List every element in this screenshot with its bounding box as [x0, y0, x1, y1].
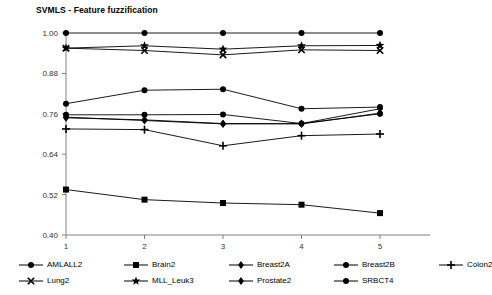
legend-item-mll-leuk3[interactable]: MLL_Leuk3 [123, 274, 194, 288]
legend-row: AMLALL2Brain2Breast2ABreast2BColon2 [8, 258, 442, 272]
x-tick-label: 3 [221, 242, 226, 251]
data-point-star [132, 276, 141, 284]
legend-swatch [228, 259, 254, 271]
legend-row: Lung2MLL_Leuk3Prostate2SRBCT4 [8, 274, 442, 288]
data-point-diamond [238, 261, 244, 269]
legend-item-breast2a[interactable]: Breast2A [228, 258, 290, 272]
data-point-circle [220, 30, 226, 36]
x-tick-label: 4 [299, 242, 304, 251]
series-colon2 [62, 125, 384, 150]
data-point-circle [299, 106, 305, 112]
legend-item-srbct4[interactable]: SRBCT4 [333, 274, 394, 288]
data-point-diamond [220, 120, 226, 128]
legend-marker-circle [333, 259, 359, 271]
legend-marker [447, 261, 455, 269]
legend-marker-circle [18, 259, 44, 271]
data-point-square [133, 262, 139, 268]
x-tick-label: 5 [378, 242, 383, 251]
series-breast2b [63, 86, 383, 112]
data-point-circle [343, 278, 349, 284]
legend-marker [238, 261, 244, 269]
y-tick-label: 0.52 [42, 191, 58, 200]
data-point-circle [63, 30, 69, 36]
y-tick-label: 1.00 [42, 29, 58, 38]
data-point-circle [220, 111, 226, 117]
legend-marker-cross [18, 275, 44, 287]
legend-marker [238, 277, 244, 285]
data-point-square [220, 200, 226, 206]
data-point-circle [142, 87, 148, 93]
legend-marker-plus [438, 259, 464, 271]
legend-item-prostate2[interactable]: Prostate2 [228, 274, 291, 288]
chart-legend: AMLALL2Brain2Breast2ABreast2BColon2Lung2… [8, 258, 442, 292]
legend-label: AMLALL2 [47, 259, 82, 271]
data-point-circle [142, 30, 148, 36]
data-point-square [377, 210, 383, 216]
series-mll-leuk3 [62, 41, 385, 53]
legend-label: SRBCT4 [362, 275, 394, 287]
data-point-circle [343, 262, 349, 268]
data-point-circle [220, 86, 226, 92]
data-point-diamond [238, 277, 244, 285]
data-point-circle [63, 101, 69, 107]
data-point-circle [299, 30, 305, 36]
data-point-diamond [142, 116, 148, 124]
legend-label: MLL_Leuk3 [152, 275, 194, 287]
legend-swatch [18, 275, 44, 287]
legend-swatch [438, 259, 464, 271]
legend-item-lung2[interactable]: Lung2 [18, 274, 69, 288]
legend-swatch [123, 275, 149, 287]
data-point-circle [377, 30, 383, 36]
legend-marker-diamond [228, 275, 254, 287]
legend-marker [28, 262, 34, 268]
x-tick-label: 1 [64, 242, 69, 251]
chart-plot-area: 1.000.880.760.640.520.4012345 [0, 0, 442, 258]
legend-label: Breast2B [362, 259, 395, 271]
y-tick-label: 0.40 [42, 231, 58, 240]
legend-label: Brain2 [152, 259, 175, 271]
legend-marker-star [123, 275, 149, 287]
legend-marker-diamond [228, 259, 254, 271]
legend-swatch [123, 259, 149, 271]
legend-marker [132, 276, 141, 284]
data-point-circle [28, 262, 34, 268]
legend-marker [133, 262, 139, 268]
legend-label: Colon2 [467, 259, 492, 271]
series-srbct4 [63, 30, 383, 36]
legend-item-brain2[interactable]: Brain2 [123, 258, 175, 272]
legend-label: Prostate2 [257, 275, 291, 287]
data-point-square [63, 187, 69, 193]
legend-marker [343, 262, 349, 268]
legend-marker [343, 278, 349, 284]
data-point-star [297, 41, 306, 49]
x-tick-label: 2 [142, 242, 147, 251]
series-brain2 [63, 187, 383, 217]
y-tick-label: 0.64 [42, 150, 58, 159]
y-tick-label: 0.88 [42, 69, 58, 78]
legend-label: Breast2A [257, 259, 290, 271]
legend-marker-circle [333, 275, 359, 287]
legend-swatch [333, 275, 359, 287]
legend-swatch [228, 275, 254, 287]
y-tick-label: 0.76 [42, 110, 58, 119]
legend-swatch [333, 259, 359, 271]
legend-marker-square [123, 259, 149, 271]
legend-swatch [18, 259, 44, 271]
legend-item-amlall2[interactable]: AMLALL2 [18, 258, 82, 272]
data-point-square [142, 197, 148, 203]
data-point-diamond [299, 120, 305, 128]
data-point-square [299, 202, 305, 208]
legend-label: Lung2 [47, 275, 69, 287]
legend-item-colon2[interactable]: Colon2 [438, 258, 492, 272]
legend-item-breast2b[interactable]: Breast2B [333, 258, 395, 272]
